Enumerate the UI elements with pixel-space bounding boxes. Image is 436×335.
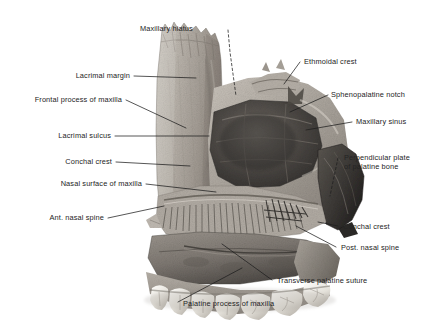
label-palatine-process-of-maxilla: Palatine process of maxilla: [183, 299, 274, 308]
label-maxillary-hiatus: Maxillary hiatus: [140, 24, 193, 33]
label-frontal-process-of-maxilla: Frontal process of maxilla: [0, 95, 122, 104]
label-lacrimal-sulcus: Lacrimal sulcus: [4, 131, 111, 140]
anatomical-figure-maxilla: Maxillary hiatus Lacrimal margin Frontal…: [0, 0, 436, 335]
label-conchal-crest-lower: Conchal crest: [343, 222, 390, 231]
label-perpendicular-plate-of-palatine-bone: Perpendicular plate of palatine bone: [344, 153, 418, 171]
label-sphenopalatine-notch: Sphenopalatine notch: [331, 90, 405, 99]
label-lacrimal-margin: Lacrimal margin: [4, 71, 130, 80]
label-conchal-crest-upper: Conchal crest: [4, 157, 112, 166]
label-nasal-surface-of-maxilla: Nasal surface of maxilla: [0, 179, 142, 188]
label-ant-nasal-spine: Ant. nasal spine: [4, 213, 104, 222]
label-maxillary-sinus: Maxillary sinus: [356, 117, 406, 126]
label-ethmoidal-crest: Ethmoidal crest: [304, 57, 357, 66]
label-post-nasal-spine: Post. nasal spine: [341, 243, 399, 252]
label-transverse-palatine-suture: Transverse palatine suture: [277, 276, 367, 285]
